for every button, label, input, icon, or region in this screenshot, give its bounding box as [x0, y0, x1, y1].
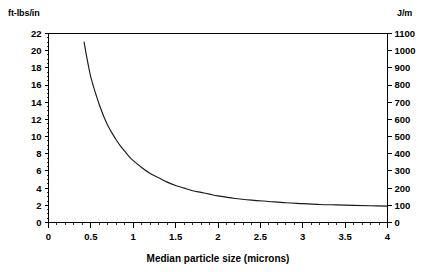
left-tick-label: 2: [36, 200, 41, 211]
left-tick-label: 14: [31, 97, 42, 108]
right-tick-label: 600: [395, 114, 411, 125]
left-tick-label: 8: [36, 148, 41, 159]
x-tick-label: 2: [215, 231, 220, 242]
x-axis-tick-labels: 00.511.522.533.54: [46, 231, 391, 242]
left-tick-label: 16: [31, 79, 42, 90]
right-axis-tick-labels: 010020030040050060070080090010001100: [395, 28, 416, 228]
x-tick-label: 1: [131, 231, 137, 242]
x-tick-label: 2.5: [254, 231, 268, 242]
right-tick-label: 0: [395, 217, 400, 228]
x-axis-title: Median particle size (microns): [147, 253, 290, 264]
left-tick-label: 6: [36, 165, 41, 176]
data-series-curve: [84, 42, 387, 206]
right-tick-label: 100: [395, 200, 411, 211]
right-tick-label: 900: [395, 62, 411, 73]
right-tick-label: 500: [395, 131, 411, 142]
left-tick-label: 20: [31, 45, 42, 56]
plot-area: 0246810121416182022 01002003004005006007…: [0, 0, 435, 272]
right-tick-label: 1100: [395, 28, 416, 39]
plot-frame-border: [49, 34, 388, 223]
x-tick-label: 0.5: [84, 231, 98, 242]
right-axis-major-ticks: [388, 34, 392, 223]
left-tick-label: 4: [36, 183, 42, 194]
left-tick-label: 12: [31, 114, 42, 125]
left-tick-label: 10: [31, 131, 42, 142]
chart-container: ft-lbs/in J/m 0246810121416182022 010020…: [0, 0, 435, 272]
right-tick-label: 800: [395, 79, 411, 90]
left-tick-label: 22: [31, 28, 42, 39]
right-tick-label: 300: [395, 165, 411, 176]
right-tick-label: 1000: [395, 45, 416, 56]
right-tick-label: 200: [395, 183, 411, 194]
left-tick-label: 0: [36, 217, 41, 228]
x-tick-label: 3: [300, 231, 305, 242]
right-tick-label: 700: [395, 97, 411, 108]
x-tick-label: 3.5: [339, 231, 353, 242]
x-tick-label: 4: [385, 231, 391, 242]
x-tick-label: 0: [46, 231, 51, 242]
x-tick-label: 1.5: [169, 231, 183, 242]
left-tick-label: 18: [31, 62, 42, 73]
right-tick-label: 400: [395, 148, 411, 159]
left-axis-tick-labels: 0246810121416182022: [31, 28, 42, 228]
